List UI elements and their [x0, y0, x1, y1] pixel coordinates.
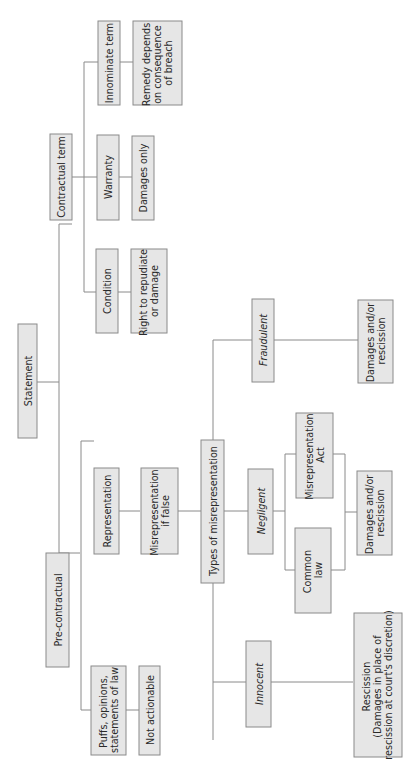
svg-text:Condition: Condition	[102, 268, 113, 314]
node-warranty-remedy: Damages only	[132, 136, 154, 220]
node-representation: Representation	[94, 468, 119, 554]
node-types-of-misrep: Types of misrepresentation	[201, 440, 224, 583]
node-fraudulent-remedy: Damages and/or rescission	[358, 300, 393, 383]
node-innocent: Innocent	[246, 641, 271, 727]
svg-text:Not actionable: Not actionable	[144, 675, 155, 745]
svg-text:Innominate term: Innominate term	[104, 23, 115, 103]
svg-text:Innocent: Innocent	[253, 662, 264, 705]
misrepresentation-flowchart: Statement Contractual term Pre-contractu…	[0, 0, 415, 778]
node-innominate-term: Innominate term	[98, 21, 120, 105]
svg-text:Warranty: Warranty	[103, 155, 114, 199]
node-misrep-act: Misrepresentation Act	[296, 410, 333, 499]
svg-text:Statement: Statement	[22, 356, 33, 407]
node-negligent: Negligent	[248, 469, 273, 554]
node-condition-remedy: Right to repudiate or damage	[131, 246, 167, 336]
node-innominate-remedy: Remedy depends on consequence of breach	[133, 20, 182, 106]
node-contractual-term: Contractual term	[50, 134, 72, 220]
node-negligent-remedy: Damages and/or rescission	[357, 471, 392, 555]
svg-text:Negligent: Negligent	[255, 487, 266, 535]
svg-text:Types of misrepresentation: Types of misrepresentation	[207, 446, 218, 577]
node-condition: Condition	[96, 249, 118, 333]
svg-text:Puffs, opinions, stateme: Puffs, opinions, statements of law	[98, 667, 120, 753]
node-not-actionable: Not actionable	[139, 666, 160, 755]
svg-text:Contractual term: Contractual term	[56, 136, 67, 218]
node-statement: Statement	[18, 324, 37, 438]
node-misrep-if-false: Misrepresentation if false	[141, 466, 178, 555]
node-pre-contractual: Pre-contractual	[46, 553, 69, 667]
svg-text:Fraudulent: Fraudulent	[258, 313, 269, 366]
node-innocent-remedy: Rescission (Damages in place of rescissi…	[354, 610, 402, 759]
node-common-law: Common law	[295, 528, 331, 613]
svg-text:Representation: Representation	[101, 475, 112, 548]
svg-text:Pre-contractual: Pre-contractual	[52, 573, 63, 646]
node-puffs: Puffs, opinions, statements of law	[91, 666, 126, 755]
node-fraudulent: Fraudulent	[252, 299, 274, 382]
connectors	[37, 62, 358, 740]
svg-text:Damages only: Damages only	[138, 143, 149, 212]
node-warranty: Warranty	[97, 135, 119, 220]
